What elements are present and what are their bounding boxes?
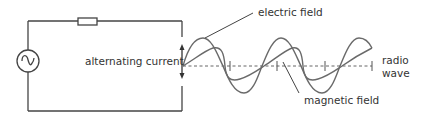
radio-wave-label-line2: wave xyxy=(382,67,410,79)
electric-field-label: electric field xyxy=(258,6,323,18)
resistor xyxy=(78,18,97,25)
ac-source-icon xyxy=(17,50,39,72)
radio-wave-label-line1: radio xyxy=(382,54,409,66)
electric-field-leader xyxy=(205,13,253,38)
alternating-current-label: alternating current xyxy=(85,55,184,67)
radio-wave-diagram: alternating current electric field magne… xyxy=(0,0,425,118)
magnetic-field-leader xyxy=(283,62,299,93)
magnetic-field-label: magnetic field xyxy=(304,94,379,106)
